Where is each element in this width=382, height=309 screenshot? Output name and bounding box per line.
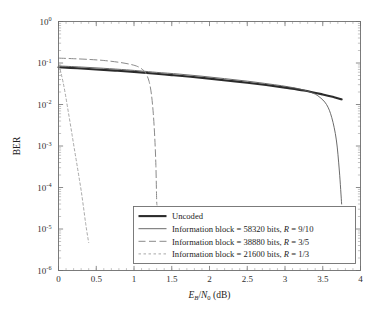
y-tick-label: 10-4 — [37, 181, 51, 193]
series-line-0 — [59, 67, 342, 99]
x-tick-label: 2.5 — [242, 274, 254, 284]
y-axis-tick-labels: 10010-110-210-310-410-510-6 — [37, 15, 51, 276]
x-tick-label: 1 — [132, 274, 137, 284]
y-tick-label: 10-3 — [37, 140, 51, 152]
x-tick-label: 3.5 — [317, 274, 329, 284]
legend-label-3: Information block = 21600 bits, R = 1/3 — [172, 249, 309, 259]
y-tick-label: 10-5 — [37, 223, 51, 235]
x-axis-tick-labels: 00.511.522.533.54 — [56, 274, 363, 284]
ber-vs-ebn0-plot: 10010-110-210-310-410-510-600.511.522.53… — [0, 0, 382, 309]
x-tick-label: 0 — [56, 274, 61, 284]
x-tick-label: 2 — [207, 274, 212, 284]
x-tick-label: 3 — [283, 274, 288, 284]
x-tick-label: 4 — [358, 274, 363, 284]
legend-label-2: Information block = 38880 bits, R = 3/5 — [172, 237, 309, 247]
y-axis-title: BER — [12, 136, 22, 155]
legend-label-0: Uncoded — [172, 211, 204, 221]
x-tick-label: 1.5 — [166, 274, 178, 284]
y-tick-label: 10-6 — [37, 264, 51, 276]
x-axis-title: EB/N0 (dB) — [188, 290, 231, 301]
series-line-1 — [59, 66, 342, 204]
y-tick-label: 100 — [39, 15, 51, 27]
legend: UncodedInformation block = 58320 bits, R… — [134, 207, 356, 264]
series-line-3 — [59, 65, 89, 243]
y-tick-label: 10-1 — [37, 57, 51, 69]
ber-chart-figure: 10010-110-210-310-410-510-600.511.522.53… — [0, 0, 382, 309]
x-tick-label: 0.5 — [91, 274, 103, 284]
legend-label-1: Information block = 58320 bits, R = 9/10 — [172, 224, 313, 234]
y-tick-label: 10-2 — [37, 98, 51, 110]
series-line-2 — [59, 58, 158, 205]
